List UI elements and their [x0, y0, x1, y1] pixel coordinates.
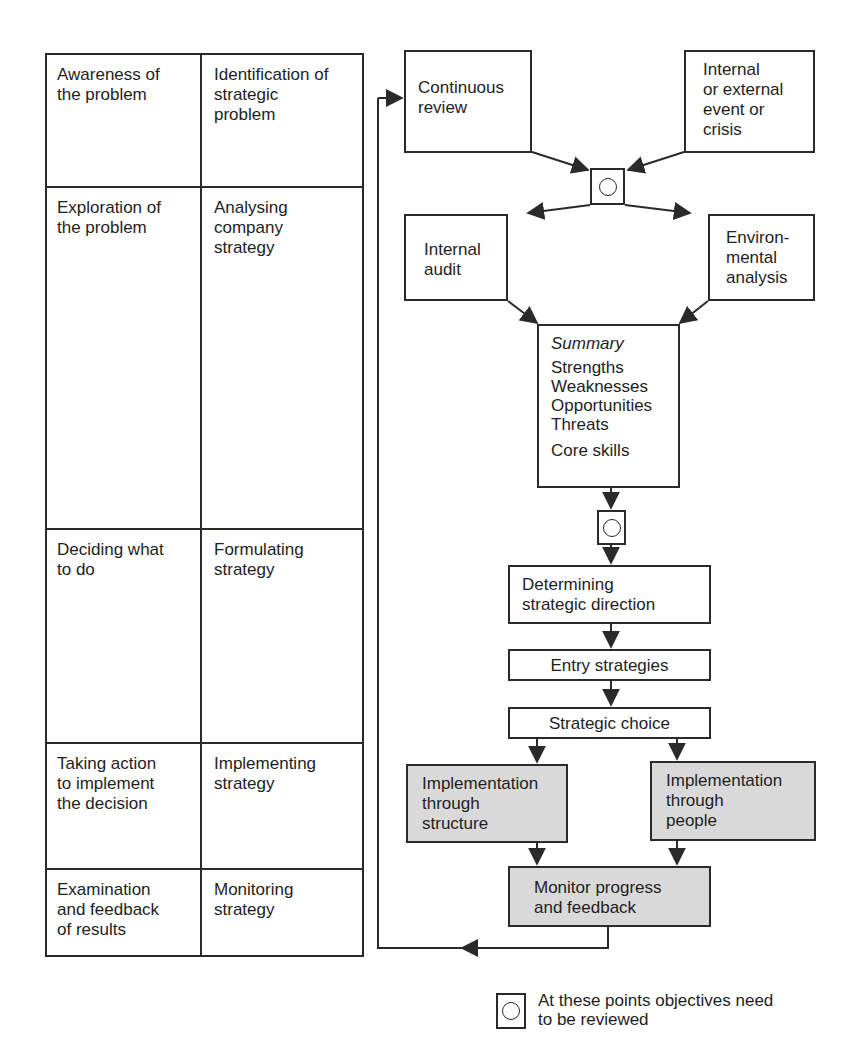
strategy-process-diagram: Awareness of the problem Identification …: [0, 0, 861, 1055]
continuous-review-box: Continuous review: [404, 50, 532, 153]
implementation-structure-box: Implementation through structure: [406, 764, 568, 843]
strategic-choice-box: Strategic choice: [508, 707, 711, 739]
environmental-analysis-box: Environ- mental analysis: [708, 214, 815, 301]
review-point-icon: [590, 168, 625, 205]
strategic-direction-box: Determining strategic direction: [508, 565, 711, 624]
swot-list: Strengths Weaknesses Opportunities Threa…: [551, 358, 678, 434]
monitor-progress-box: Monitor progress and feedback: [508, 866, 711, 927]
legend-text: At these points objectives need to be re…: [538, 991, 773, 1029]
internal-audit-box: Internal audit: [404, 214, 508, 301]
review-point-icon: [597, 510, 626, 545]
summary-heading: Summary: [551, 334, 678, 354]
implementation-people-box: Implementation through people: [650, 761, 816, 841]
external-event-box: Internal or external event or crisis: [684, 50, 815, 153]
core-skills: Core skills: [551, 441, 678, 461]
entry-strategies-box: Entry strategies: [508, 649, 711, 681]
review-point-icon: [496, 993, 526, 1029]
flow-connectors: [0, 0, 861, 1055]
summary-box: Summary Strengths Weaknesses Opportuniti…: [537, 324, 680, 488]
